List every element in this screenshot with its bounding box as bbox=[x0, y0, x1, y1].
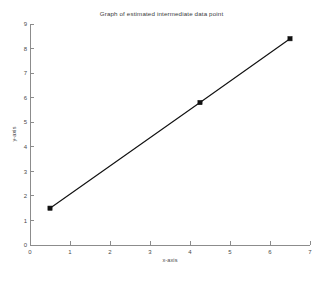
x-tick-label: 3 bbox=[148, 249, 152, 255]
data-point-marker bbox=[288, 37, 292, 41]
y-tick-label: 8 bbox=[24, 46, 28, 52]
x-axis-title: x-axis bbox=[162, 257, 177, 263]
chart-figure: Graph of estimated intermediate data poi… bbox=[0, 0, 323, 281]
x-tick-label: 1 bbox=[68, 249, 72, 255]
x-tick-label: 7 bbox=[308, 249, 312, 255]
y-tick-label: 3 bbox=[24, 169, 28, 175]
y-tick-label: 7 bbox=[24, 70, 28, 76]
y-tick-label: 6 bbox=[24, 95, 28, 101]
data-point-marker bbox=[198, 100, 202, 104]
plot-area: 01234567 0123456789 x-axis y-axis bbox=[0, 0, 323, 281]
axes-group bbox=[30, 24, 310, 245]
x-axis-ticks: 01234567 bbox=[28, 241, 312, 255]
y-tick-label: 4 bbox=[24, 144, 28, 150]
x-tick-label: 6 bbox=[268, 249, 272, 255]
x-tick-label: 4 bbox=[188, 249, 192, 255]
x-tick-label: 2 bbox=[108, 249, 112, 255]
y-tick-label: 5 bbox=[24, 119, 28, 125]
y-tick-label: 0 bbox=[24, 242, 28, 248]
x-tick-label: 5 bbox=[228, 249, 232, 255]
x-tick-label: 0 bbox=[28, 249, 32, 255]
y-tick-label: 9 bbox=[24, 21, 28, 27]
y-tick-label: 2 bbox=[24, 193, 28, 199]
y-axis-title: y-axis bbox=[11, 126, 17, 141]
series-line bbox=[50, 39, 290, 208]
y-axis-ticks: 0123456789 bbox=[24, 21, 34, 248]
data-point-marker bbox=[48, 206, 52, 210]
y-tick-label: 1 bbox=[24, 218, 28, 224]
data-series-group bbox=[48, 37, 292, 211]
